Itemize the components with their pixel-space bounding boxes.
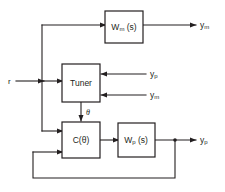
block-tuner[interactable]: Tuner — [62, 64, 100, 102]
junction-dot-output-tap — [173, 138, 177, 142]
block-plant-label: W — [124, 135, 132, 145]
block-controller-suffix: θ) — [82, 135, 90, 145]
signal-label-theta: θ — [86, 108, 90, 117]
signal-label-yp-output: yp — [200, 135, 208, 145]
svg-text:C(θ): C(θ) — [73, 135, 90, 145]
block-diagram-canvas: Wm (s) Tuner C(θ) Wp (s) r ym yp — [0, 0, 225, 192]
svg-text:Wm (s): Wm (s) — [111, 22, 136, 32]
block-controller[interactable]: C(θ) — [62, 122, 100, 158]
signal-label-yp-input: yp — [150, 69, 158, 79]
signal-label-ym-input: ym — [150, 90, 159, 100]
block-controller-label: C( — [73, 135, 82, 145]
block-tuner-label: Tuner — [70, 78, 92, 88]
block-diagram-svg: Wm (s) Tuner C(θ) Wp (s) r ym yp — [0, 0, 225, 192]
block-plant-suffix: (s) — [136, 135, 148, 145]
block-reference-model[interactable]: Wm (s) — [105, 11, 143, 43]
svg-text:Wp (s): Wp (s) — [124, 135, 148, 145]
block-reference-model-label: W — [111, 22, 119, 32]
block-reference-model-suffix: (s) — [124, 22, 136, 32]
signal-label-ym-output: ym — [200, 20, 209, 30]
signal-label-r: r — [8, 77, 11, 86]
block-plant[interactable]: Wp (s) — [118, 123, 155, 157]
